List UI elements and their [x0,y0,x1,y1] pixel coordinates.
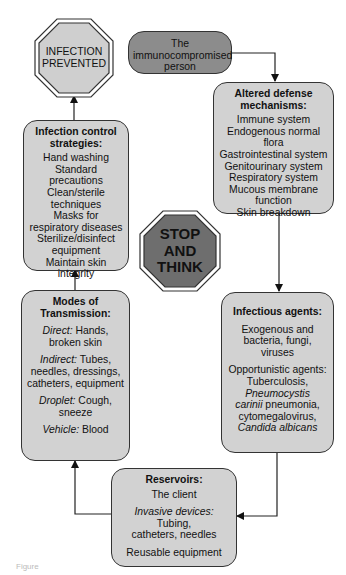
mode-droplet: Droplet: Cough, sneeze [26,395,125,418]
list-item: Genitourinary system [218,161,329,173]
exogenous-para: Exogenous and bacteria, fungi, viruses [226,324,329,359]
stop-think-line-1: STOP [139,226,221,243]
list-item: Hand washing [28,152,124,164]
reservoirs-title: Reservoirs: [116,474,232,486]
opportunistic-para: Opportunistic agents: Tuberculosis, Pneu… [226,364,329,434]
list-item: Sterilize/disinfect [28,233,124,245]
list-item: Standard precautions [28,164,124,187]
list-item: Masks for [28,210,124,222]
altered-defense-node: Altered defense mechanisms: Immune syste… [213,82,334,214]
list-item: Skin breakdown [218,207,329,219]
pill-line-2: immunocompromised [133,50,227,62]
list-item: Immune system [218,114,329,126]
stop-think-line-2: AND [139,243,221,260]
infection-control-node: Infection control strategies: Hand washi… [23,120,129,271]
list-item: equipment [28,245,124,257]
modes-title: Modes of Transmission: [26,296,125,319]
pill-line-1: The [133,38,227,50]
mode-direct: Direct: Hands, broken skin [26,325,125,348]
list-item: Mucous membrane [218,184,329,196]
stop-think-line-3: THINK [139,259,221,276]
altered-defense-title: Altered defense mechanisms: [218,88,329,111]
list-item: Endogenous normal flora [218,126,329,149]
list-item: respiratory diseases [28,222,124,234]
list-item: Respiratory system [218,172,329,184]
infection-control-title: Infection control strategies: [28,126,124,149]
immunocompromised-person-node: The immunocompromised person [128,31,232,74]
infection-prevented-sign: INFECTION PREVENTED [34,18,114,98]
prevented-line-2: PREVENTED [34,57,114,69]
reservoirs-node: Reservoirs: The client Invasive devices:… [111,468,237,567]
prevented-line-1: INFECTION [34,45,114,57]
list-item: Clean/sterile [28,187,124,199]
list-item: techniques [28,199,124,211]
infectious-agents-node: Infectious agents: Exogenous and bacteri… [221,292,334,453]
pill-line-3: person [133,61,227,73]
mode-indirect: Indirect: Tubes, needles, dressings, cat… [26,354,125,389]
reservoir-invasive-devices: Invasive devices: Tubing, catheters, nee… [116,506,232,541]
modes-of-transmission-node: Modes of Transmission: Direct: Hands, br… [21,290,130,461]
list-item: function [218,195,329,207]
mode-vehicle: Vehicle: Blood [26,424,125,436]
stop-and-think-sign: STOP AND THINK [139,210,221,292]
infectious-agents-title: Infectious agents: [226,306,329,318]
list-item: Gastrointestinal system [218,149,329,161]
reservoir-client: The client [116,489,232,501]
list-item: Maintain skin integrity [28,257,124,280]
reservoir-equipment: Reusable equipment [116,547,232,559]
figure-caption: Figure [16,562,39,571]
